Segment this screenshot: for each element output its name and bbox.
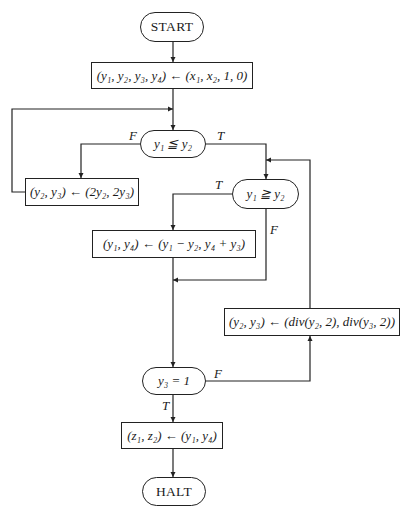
output-process-box: (z₁, z₂) ← (y₁, y₄) xyxy=(121,422,223,449)
edge-label-test2-true: T xyxy=(215,177,222,193)
decision-y1-ge-y2: y₁ ≧ y₂ xyxy=(232,179,299,209)
init-process-box: (y₁, y₂, y₃, y₄) ← (x₁, x₂, 1, 0) xyxy=(91,62,253,89)
subtract-process-box: (y₁, y₄) ← (y₁ − y₂, y₄ + y₃) xyxy=(92,230,256,258)
edge-label-test1-false: F xyxy=(129,128,137,144)
halve-process-box: (y₂, y₃) ← (div(y₂, 2), div(y₃, 2)) xyxy=(224,308,400,336)
flowchart: START (y₁, y₂, y₃, y₄) ← (x₁, x₂, 1, 0) … xyxy=(0,0,409,517)
edge-label-test3-false: F xyxy=(214,366,222,382)
decision-y1-le-y2: y₁ ≦ y₂ xyxy=(140,130,206,158)
halt-terminal: HALT xyxy=(142,477,206,506)
edge-label-test2-false: F xyxy=(270,222,278,238)
decision-y3-eq-1: y₃ = 1 xyxy=(142,367,206,395)
start-terminal: START xyxy=(140,12,204,42)
double-process-box: (y₂, y₃) ← (2y₂, 2y₃) xyxy=(25,178,139,206)
edge-label-test3-true: T xyxy=(162,398,169,414)
edge-label-test1-true: T xyxy=(217,128,224,144)
